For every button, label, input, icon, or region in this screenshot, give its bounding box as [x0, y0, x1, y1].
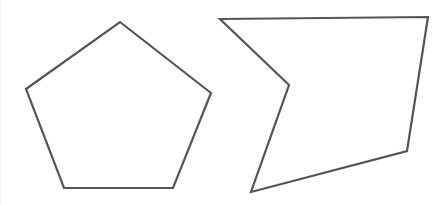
regular-pentagon-shape [26, 22, 211, 188]
concave-pentagon-shape [220, 17, 428, 192]
diagram-canvas [0, 0, 443, 205]
